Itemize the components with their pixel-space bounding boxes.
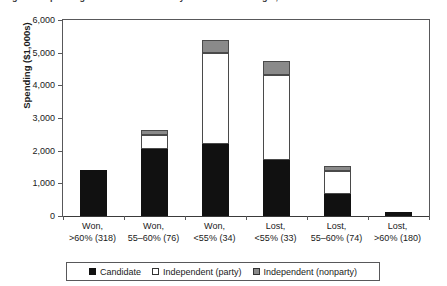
bar-segment-cand: [385, 212, 412, 216]
legend-label: Independent (nonparty): [264, 267, 358, 277]
x-category-line1: Won,: [143, 221, 164, 231]
bar-segment-party: [141, 135, 168, 149]
bar-segment-cand: [202, 144, 229, 216]
y-tick-label: 3,000: [32, 113, 55, 123]
x-axis-labels: Won,>60% (318)Won,55–60% (76)Won,<55% (3…: [62, 221, 430, 251]
x-tick: [368, 216, 369, 220]
x-category-line1: Lost,: [388, 221, 408, 231]
x-tick: [429, 216, 430, 220]
x-tick: [307, 216, 308, 220]
bar-stack: [141, 130, 168, 216]
bar-segment-cand: [141, 149, 168, 216]
bar-segment-cand: [80, 170, 107, 216]
bar-segment-party: [263, 75, 290, 160]
x-category-label: Lost,>60% (180): [360, 221, 436, 244]
bar-segment-nonparty: [141, 130, 168, 135]
y-tick-label: 4,000: [32, 80, 55, 90]
x-tick: [124, 216, 125, 220]
bar-stack: [202, 40, 229, 216]
chart-figure: Figure 1. Spending in U.S. House races b…: [0, 0, 447, 286]
x-tick: [185, 216, 186, 220]
legend-item[interactable]: Independent (nonparty): [253, 267, 358, 277]
bar-stack: [80, 170, 107, 216]
y-tick-label: 0: [50, 211, 55, 221]
figure-title-text: Figure 1. Spending in U.S. House races b…: [4, 0, 301, 2]
legend-label: Candidate: [100, 267, 141, 277]
legend-label: Independent (party): [163, 267, 242, 277]
bar-segment-party: [202, 53, 229, 144]
bar-stack: [385, 212, 412, 216]
clipped-figure-title: Figure 1. Spending in U.S. House races b…: [0, 0, 447, 7]
legend-swatch-party: [152, 268, 159, 275]
x-category-line1: Lost,: [327, 221, 347, 231]
bar-group: [63, 20, 429, 216]
x-tick: [246, 216, 247, 220]
bar-segment-cand: [263, 160, 290, 216]
y-tick-label: 6,000: [32, 15, 55, 25]
legend-swatch-cand: [89, 268, 96, 275]
y-tick-label: 2,000: [32, 146, 55, 156]
plot-area: 6,0005,0004,0003,0002,0001,0000: [62, 19, 430, 217]
chart-legend: CandidateIndependent (party)Independent …: [66, 262, 380, 281]
x-category-line1: Won,: [204, 221, 225, 231]
bar-segment-nonparty: [263, 61, 290, 75]
y-tick-label: 1,000: [32, 178, 55, 188]
legend-swatch-nonparty: [253, 268, 260, 275]
x-category-line1: Won,: [82, 221, 103, 231]
legend-item[interactable]: Candidate: [89, 267, 141, 277]
x-category-line2: >60% (180): [360, 233, 436, 245]
y-tick-label: 5,000: [32, 48, 55, 58]
x-tick: [63, 216, 64, 220]
bar-segment-party: [324, 171, 351, 194]
x-category-line1: Lost,: [266, 221, 286, 231]
bar-stack: [324, 166, 351, 216]
bar-segment-nonparty: [202, 40, 229, 53]
legend-item[interactable]: Independent (party): [152, 267, 242, 277]
bar-segment-nonparty: [324, 166, 351, 171]
bar-segment-cand: [324, 194, 351, 216]
y-axis-title: Spending ($1,000s): [21, 0, 32, 146]
bar-stack: [263, 61, 290, 216]
